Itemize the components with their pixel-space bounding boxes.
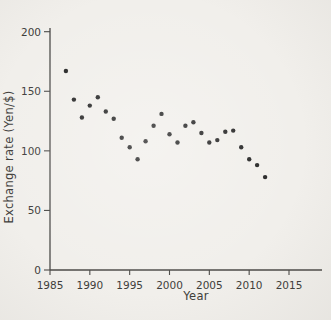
data-point [183,124,187,128]
data-point [96,95,100,99]
data-point [263,175,267,179]
data-point [143,139,147,143]
tick-labels: 0501001502001985199019952000200520102015 [21,26,302,292]
scatter-plot: 0501001502001985199019952000200520102015… [0,0,331,320]
data-point [255,163,259,167]
data-point [191,120,195,124]
data-point [104,109,108,113]
data-point [199,131,203,135]
data-point [128,145,132,149]
data-point [72,97,76,101]
data-point [88,103,92,107]
x-axis-title: Year [182,289,209,303]
x-tick-label: 2000 [156,279,183,291]
data-point [215,138,219,142]
x-tick-label: 1985 [37,279,64,291]
data-point [159,112,163,116]
data-point [247,157,251,161]
data-point [167,132,171,136]
x-tick-label: 2015 [276,279,303,291]
y-tick-label: 50 [28,204,41,216]
data-point [112,117,116,121]
data-point [231,128,235,132]
data-point [175,140,179,144]
data-point [64,69,68,73]
tick-marks [44,32,289,275]
data-point [120,136,124,140]
y-axis-title: Exchange rate (Yen/$) [2,90,16,223]
x-tick-label: 2010 [236,279,263,291]
x-tick-label: 1990 [76,279,103,291]
y-tick-label: 0 [34,264,41,276]
data-point [207,140,211,144]
data-point [151,124,155,128]
data-point [239,145,243,149]
x-tick-label: 1995 [116,279,143,291]
y-tick-label: 200 [21,26,41,38]
y-tick-label: 100 [21,145,41,157]
data-point [223,130,227,134]
data-points [64,69,268,180]
y-tick-label: 150 [21,85,41,97]
data-point [80,115,84,119]
axes [50,28,322,270]
data-point [135,157,139,161]
scatter-plot-figure: 0501001502001985199019952000200520102015… [0,0,331,320]
